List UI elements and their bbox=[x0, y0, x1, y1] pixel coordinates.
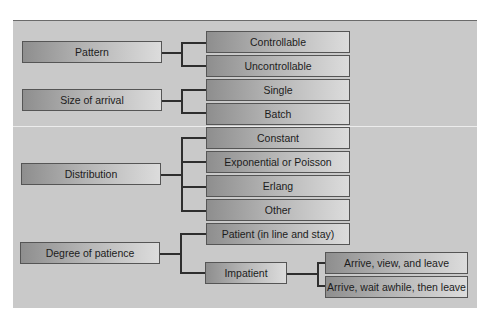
connector bbox=[162, 100, 182, 102]
connector bbox=[317, 262, 325, 264]
connector bbox=[180, 233, 206, 235]
category-distribution: Distribution bbox=[21, 163, 161, 185]
option-uncontrollable: Uncontrollable bbox=[206, 55, 350, 77]
connector bbox=[181, 42, 206, 44]
option-arrive-wait-leave: Arrive, wait awhile, then leave bbox=[325, 276, 468, 298]
connector bbox=[181, 186, 206, 188]
connector bbox=[181, 42, 183, 66]
connector bbox=[317, 285, 325, 287]
connector bbox=[180, 233, 182, 273]
category-pattern: Pattern bbox=[22, 41, 162, 63]
connector bbox=[181, 89, 183, 113]
connector bbox=[181, 112, 206, 114]
option-patient: Patient (in line and stay) bbox=[206, 223, 350, 245]
option-arrive-view-leave: Arrive, view, and leave bbox=[325, 252, 468, 274]
option-batch: Batch bbox=[206, 103, 350, 125]
option-constant: Constant bbox=[206, 127, 350, 149]
category-size-of-arrival: Size of arrival bbox=[22, 89, 162, 111]
connector bbox=[287, 273, 318, 275]
connector bbox=[180, 272, 205, 274]
connector bbox=[160, 253, 181, 255]
connector bbox=[181, 89, 206, 91]
option-impatient: Impatient bbox=[205, 262, 287, 284]
option-erlang: Erlang bbox=[206, 175, 350, 197]
option-exponential-or-poisson: Exponential or Poisson bbox=[206, 151, 350, 173]
connector bbox=[181, 161, 206, 163]
connector bbox=[162, 52, 182, 54]
connector bbox=[181, 210, 206, 212]
connector bbox=[317, 262, 319, 286]
option-other: Other bbox=[206, 199, 350, 221]
connector bbox=[161, 174, 182, 176]
connector bbox=[181, 65, 206, 67]
connector bbox=[181, 137, 206, 139]
connector bbox=[181, 137, 183, 211]
option-single: Single bbox=[206, 79, 350, 101]
category-degree-of-patience: Degree of patience bbox=[20, 242, 160, 264]
option-controllable: Controllable bbox=[206, 31, 350, 53]
